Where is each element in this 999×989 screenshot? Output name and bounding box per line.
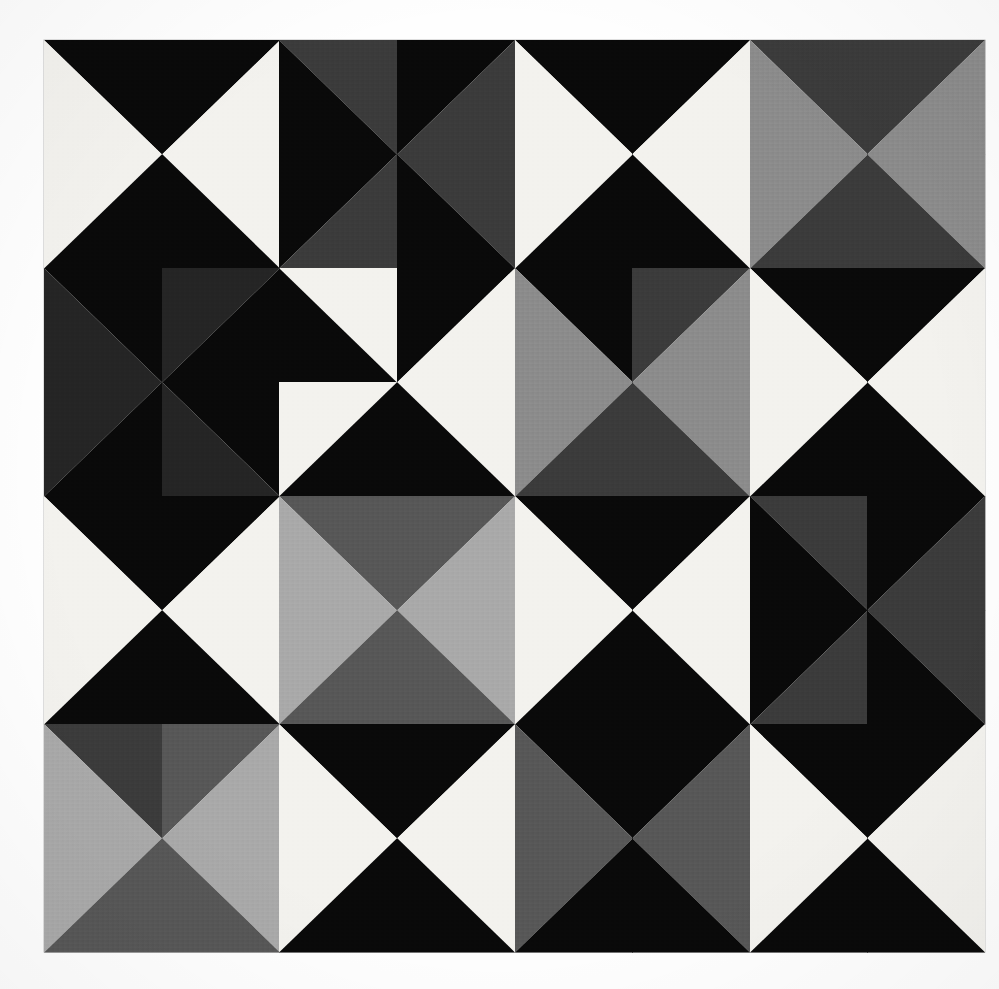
half-square-triangle-svg (750, 610, 868, 725)
half-square-triangle-svg (515, 610, 633, 725)
half-square-triangle-svg (515, 724, 633, 839)
quilt-cell (750, 496, 868, 611)
quilt-cell (397, 724, 515, 839)
quilt-cell (162, 382, 280, 497)
half-square-triangle-svg (515, 154, 633, 269)
half-square-triangle-svg (632, 40, 750, 155)
half-square-triangle-svg (632, 382, 750, 497)
quilt-cell (279, 724, 397, 839)
half-square-triangle-svg (632, 610, 750, 725)
quilt-cell (162, 838, 280, 953)
half-square-triangle-svg (750, 838, 868, 953)
half-square-triangle-svg (162, 610, 280, 725)
quilt-cell (867, 610, 985, 725)
half-square-triangle-svg (515, 382, 633, 497)
half-square-triangle-svg (162, 724, 280, 839)
quilt-cell (397, 610, 515, 725)
quilt-cell (279, 40, 397, 155)
artwork-page (0, 0, 999, 989)
half-square-triangle-svg (515, 496, 633, 611)
quilt-cell (397, 40, 515, 155)
half-square-triangle-svg (397, 154, 515, 269)
quilt-cell (632, 154, 750, 269)
quilt-cell (44, 268, 162, 383)
quilt-cell (279, 610, 397, 725)
quilt-cell (162, 610, 280, 725)
quilt-cell (397, 382, 515, 497)
half-square-triangle-svg (397, 724, 515, 839)
half-square-triangle-svg (867, 382, 985, 497)
quilt-cell (750, 40, 868, 155)
quilt-cell (867, 382, 985, 497)
half-square-triangle-svg (397, 268, 515, 383)
half-square-triangle-svg (279, 838, 397, 953)
half-square-triangle-svg (162, 40, 280, 155)
quilt-cell (515, 610, 633, 725)
half-square-triangle-svg (162, 268, 280, 383)
half-square-triangle-svg (44, 154, 162, 269)
quilt-cell (279, 382, 397, 497)
quilt-cell (162, 496, 280, 611)
quilt-cell (515, 382, 633, 497)
quilt-cell (515, 154, 633, 269)
quilt-cell (44, 40, 162, 155)
half-square-triangle-svg (279, 268, 397, 383)
half-square-triangle-svg (750, 154, 868, 269)
quilt-cell (632, 838, 750, 953)
half-square-triangle-svg (750, 382, 868, 497)
half-square-triangle-svg (867, 838, 985, 953)
half-square-triangle-svg (44, 382, 162, 497)
quilt-cell (279, 154, 397, 269)
half-square-triangle-svg (279, 724, 397, 839)
half-square-triangle-svg (162, 496, 280, 611)
half-square-triangle-svg (515, 838, 633, 953)
half-square-triangle-svg (279, 496, 397, 611)
half-square-triangle-svg (632, 268, 750, 383)
half-square-triangle-svg (279, 382, 397, 497)
quilt-cell (279, 838, 397, 953)
half-square-triangle-svg (515, 268, 633, 383)
quilt-cell (867, 724, 985, 839)
quilt-cell (397, 838, 515, 953)
half-square-triangle-svg (867, 496, 985, 611)
quilt-cell (397, 268, 515, 383)
half-square-triangle-svg (867, 610, 985, 725)
quilt-cell (867, 268, 985, 383)
quilt-cell (632, 382, 750, 497)
quilt-cell (867, 496, 985, 611)
half-square-triangle-svg (632, 496, 750, 611)
half-square-triangle-svg (44, 40, 162, 155)
half-square-triangle-svg (397, 40, 515, 155)
quilt-cell (750, 724, 868, 839)
quilt-cell (279, 268, 397, 383)
half-square-triangle-svg (397, 382, 515, 497)
half-square-triangle-svg (44, 724, 162, 839)
half-square-triangle-svg (750, 724, 868, 839)
quilt-cell (397, 496, 515, 611)
quilt-cell (44, 838, 162, 953)
quilt-cell (632, 610, 750, 725)
quilt-cell (632, 268, 750, 383)
quilt-cell (515, 496, 633, 611)
quilt-canvas (44, 40, 985, 952)
quilt-cell (750, 610, 868, 725)
quilt-cell (867, 154, 985, 269)
quilt-cell (162, 268, 280, 383)
quilt-cell (632, 724, 750, 839)
half-square-triangle-svg (397, 496, 515, 611)
half-square-triangle-svg (44, 838, 162, 953)
half-square-triangle-svg (44, 268, 162, 383)
quilt-cell (515, 838, 633, 953)
quilt-cell (515, 40, 633, 155)
quilt-cell (44, 610, 162, 725)
half-square-triangle-svg (632, 154, 750, 269)
half-square-triangle-svg (44, 610, 162, 725)
quilt-cell (515, 268, 633, 383)
half-square-triangle-svg (632, 838, 750, 953)
half-square-triangle-svg (162, 154, 280, 269)
half-square-triangle-svg (867, 154, 985, 269)
quilt-cell (750, 838, 868, 953)
quilt-cell (632, 496, 750, 611)
quilt-cell (44, 496, 162, 611)
half-square-triangle-svg (162, 838, 280, 953)
